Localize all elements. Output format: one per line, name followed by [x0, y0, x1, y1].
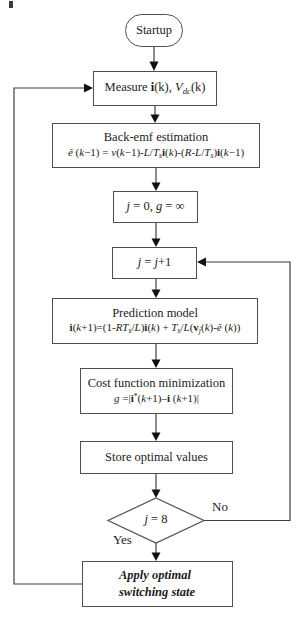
arrowhead-down-4 [152, 239, 161, 248]
cost-node: Cost function minimization g =|i*(k+1)–i… [80, 368, 233, 414]
arrowhead-down-9 [152, 553, 161, 562]
apply-line2: switching state [119, 584, 195, 601]
measure-node: Measure i(k), Vdc(k) [93, 71, 217, 106]
start-label: Startup [136, 23, 172, 39]
cost-equation: g =|i*(k+1)–i (k+1)| [114, 392, 199, 406]
apply-line1: Apply optimal [119, 567, 191, 584]
arrowhead-left-no-loop [197, 258, 206, 267]
branch-yes-label: Yes [113, 532, 132, 548]
flowchart-canvas: Startup Measure i(k), Vdc(k) Back-emf es… [0, 0, 302, 623]
apply-node: Apply optimal switching state [82, 561, 233, 607]
arrowhead-down-6 [152, 360, 161, 369]
cost-title: Cost function minimization [88, 376, 226, 392]
prediction-node: Prediction model i(k+1)=(1-RTs/L)i(k) + … [52, 298, 258, 344]
arrowhead-down-3 [152, 183, 161, 192]
arrowhead-down-7 [152, 433, 161, 442]
arrowhead-down-1 [150, 62, 159, 72]
store-label: Store optimal values [105, 450, 208, 466]
arrowhead-down-5 [152, 290, 161, 299]
store-node: Store optimal values [80, 441, 233, 474]
init-node: j = 0, g = ∞ [113, 191, 198, 223]
arrowhead-down-8 [152, 490, 161, 499]
prediction-equation: i(k+1)=(1-RTs/L)i(k) + Ts/L(vj(k)-ê (k)) [70, 321, 241, 336]
scan-artifact-mark [9, 1, 13, 8]
init-label: j = 0, g = ∞ [127, 199, 185, 215]
prediction-title: Prediction model [112, 306, 198, 322]
backemf-equation: ê (k−1) = v(k−1)-L/Tsi(k)-(R-L/Ts)i(k−1) [68, 146, 244, 161]
branch-no-label: No [212, 499, 228, 515]
arrowhead-right-feedback [84, 84, 93, 93]
arrowhead-down-2 [151, 115, 160, 124]
backemf-title: Back-emf estimation [104, 130, 208, 146]
start-node: Startup [125, 14, 183, 47]
increment-label: j = j+1 [138, 255, 172, 271]
measure-label: Measure i(k), Vdc(k) [105, 80, 206, 97]
increment-node: j = j+1 [112, 247, 197, 279]
decision-label: j = 8 [116, 512, 196, 527]
backemf-node: Back-emf estimation ê (k−1) = v(k−1)-L/T… [52, 123, 260, 168]
